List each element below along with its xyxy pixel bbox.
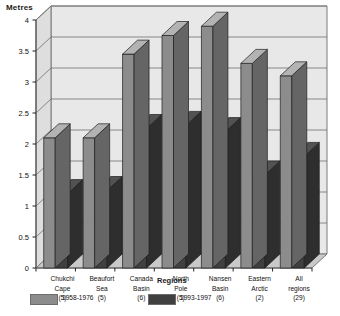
y-tick-label: 3.5 <box>5 47 29 56</box>
y-tick-label: 0 <box>5 264 29 273</box>
y-tick-label: 2 <box>5 140 29 149</box>
x-tick-label: Allregions(29) <box>276 274 322 303</box>
x-tick-label-line: (29) <box>276 293 322 303</box>
x-axis-title: Regions <box>157 276 187 285</box>
chart-canvas <box>0 0 340 316</box>
y-tick-label: 1 <box>5 202 29 211</box>
y-tick-label: 0.5 <box>5 233 29 242</box>
legend-label: 1958-1976 <box>62 294 94 301</box>
y-tick-label: 1.5 <box>5 171 29 180</box>
legend-label: 1993-1997 <box>180 294 212 301</box>
legend-swatch <box>148 294 176 305</box>
y-tick-label: 4 <box>5 16 29 25</box>
y-tick-label: 3 <box>5 78 29 87</box>
legend-swatch <box>30 294 58 305</box>
x-tick-label-line: All <box>276 274 322 284</box>
y-tick-label: 2.5 <box>5 109 29 118</box>
bar-chart: Metres 00.511.522.533.54 ChukchiCape(5)B… <box>0 0 340 316</box>
x-tick-label-line: regions <box>276 284 322 294</box>
plot-area <box>0 0 340 316</box>
